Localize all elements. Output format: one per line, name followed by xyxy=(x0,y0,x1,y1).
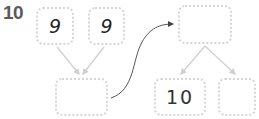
left-tree-top-right-box[interactable]: 9 xyxy=(88,7,125,45)
given-value: 10 xyxy=(166,86,194,108)
right-tree-top-box[interactable] xyxy=(178,5,232,44)
handwritten-value: 9 xyxy=(49,15,61,37)
left-tree-bottom-box[interactable] xyxy=(55,78,108,116)
right-tree-bottom-right-box[interactable] xyxy=(218,78,256,116)
right-tree-bottom-left-box[interactable]: 10 xyxy=(154,78,206,116)
left-tree-top-left-box[interactable]: 9 xyxy=(36,7,74,45)
handwritten-value: 9 xyxy=(100,15,112,37)
